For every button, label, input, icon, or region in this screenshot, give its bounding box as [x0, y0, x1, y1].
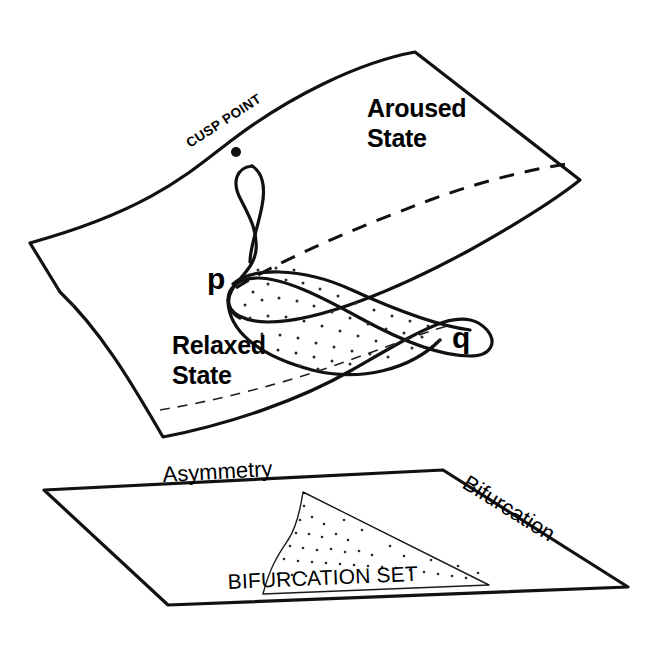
- surface-outline: [30, 52, 580, 437]
- point-q-label: q: [452, 321, 470, 354]
- upper-surface-group: Aroused State Relaxed State CUSP POINT p…: [30, 52, 580, 437]
- relaxed-state-label-line2: State: [172, 361, 232, 389]
- relaxed-state-label-line1: Relaxed: [172, 331, 266, 359]
- control-plane-group: Asymmetry Bifurcation BIFURCATION SET: [44, 456, 628, 605]
- cusp-point-marker: [231, 147, 241, 157]
- point-p-label: p: [207, 262, 225, 295]
- catastrophe-figure: Aroused State Relaxed State CUSP POINT p…: [0, 0, 660, 650]
- figure-canvas: Aroused State Relaxed State CUSP POINT p…: [0, 0, 660, 650]
- aroused-state-label-line2: State: [367, 124, 427, 152]
- aroused-state-label-line1: Aroused: [367, 94, 466, 122]
